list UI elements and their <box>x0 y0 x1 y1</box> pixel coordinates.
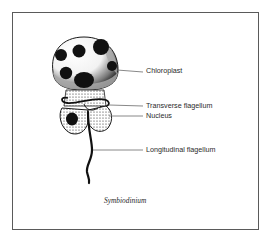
label-nucleus: Nucleus <box>146 112 172 119</box>
hypocone <box>60 104 112 134</box>
figure-caption: Symbiodinium <box>104 196 146 205</box>
symbiodinium-illustration <box>0 0 273 244</box>
label-chloroplast: Chloroplast <box>146 67 182 74</box>
label-transverse-flagellum: Transverse flagellum <box>146 102 212 109</box>
label-longitudinal-flagellum: Longitudinal flagellum <box>146 146 216 153</box>
